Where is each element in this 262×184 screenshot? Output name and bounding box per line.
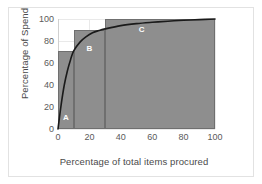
y-tick-label: 100 [39, 14, 54, 24]
pareto-chart-figure: Percentage of Spend Percentage of total … [0, 0, 262, 184]
y-tick-label: 60 [44, 58, 54, 68]
x-tick-label: 40 [116, 132, 126, 142]
gridline-vertical [215, 19, 216, 129]
x-tick-label: 100 [207, 132, 222, 142]
y-tick-label: 80 [44, 36, 54, 46]
cumulative-curve [58, 19, 215, 129]
x-tick-label: 20 [84, 132, 94, 142]
y-tick-label: 40 [44, 80, 54, 90]
cumulative-curve-path [58, 19, 215, 129]
y-axis-title: Percentage of Spend [19, 0, 30, 114]
x-tick-label: 60 [147, 132, 157, 142]
x-axis-title: Percentage of total items procured [34, 156, 234, 167]
gridline-horizontal [58, 129, 215, 130]
plot-area: 020406080100 020406080100 ABC [58, 19, 215, 129]
y-tick-label: 0 [49, 124, 54, 134]
y-tick-label: 20 [44, 102, 54, 112]
x-tick-label: 0 [55, 132, 60, 142]
x-tick-label: 80 [179, 132, 189, 142]
